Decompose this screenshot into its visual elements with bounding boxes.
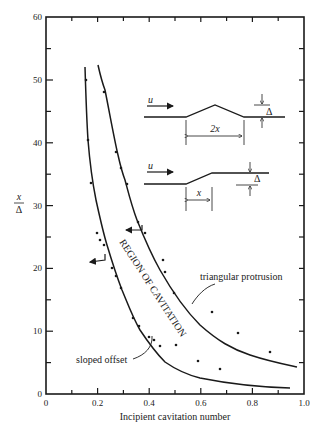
triangular-protrusion-label: triangular protrusion xyxy=(200,271,282,282)
sloped-offset-label: sloped offset xyxy=(76,354,127,365)
y-tick-30: 30 xyxy=(33,201,43,211)
y-tick-40: 40 xyxy=(33,138,43,148)
inset2-height-label: Δ xyxy=(254,173,261,184)
inset1-length-label: 2x xyxy=(210,123,220,134)
triangular-protrusion-points xyxy=(103,91,272,354)
x-tick-0.8: 0.8 xyxy=(247,398,259,408)
x-axis-title: Incipient cavitation number xyxy=(120,411,231,422)
y-tick-60: 60 xyxy=(33,12,43,22)
y-tick-50: 50 xyxy=(33,75,43,85)
y-tick-0: 0 xyxy=(38,389,43,399)
y-tick-10: 10 xyxy=(33,326,43,336)
inset2-length-label: x xyxy=(196,187,202,198)
triangular-leader xyxy=(192,284,215,304)
x-ticks xyxy=(72,17,278,394)
y-tick-20: 20 xyxy=(33,263,43,273)
x-tick-labels: 0 0.2 0.4 0.6 0.8 1.0 xyxy=(44,398,310,408)
region-of-cavitation-label: REGION OF CAVITATION xyxy=(117,237,188,339)
inset-triangular-protrusion: u 2x Δ xyxy=(144,94,285,145)
sloped-offset-leader xyxy=(133,336,152,359)
x-tick-0.4: 0.4 xyxy=(144,398,156,408)
x-tick-0: 0 xyxy=(44,398,49,408)
inset-sloped-offset: u x Δ xyxy=(144,160,269,211)
x-tick-0.2: 0.2 xyxy=(92,398,103,408)
inset2-flow-label: u xyxy=(148,160,153,171)
inset1-height-label: Δ xyxy=(266,106,273,117)
y-axis-numerator: x xyxy=(16,191,22,202)
inset1-flow-label: u xyxy=(148,94,153,105)
y-axis-title: x Δ xyxy=(14,191,24,215)
x-tick-0.6: 0.6 xyxy=(195,398,207,408)
sloped-offset-curve xyxy=(85,67,290,388)
y-axis-denominator: Δ xyxy=(16,204,23,215)
x-tick-1.0: 1.0 xyxy=(298,398,310,408)
y-tick-labels: 0 10 20 30 40 50 60 xyxy=(33,12,43,399)
cavitation-chart: 0 0.2 0.4 0.6 0.8 1.0 0 10 20 30 40 50 6… xyxy=(0,0,323,433)
